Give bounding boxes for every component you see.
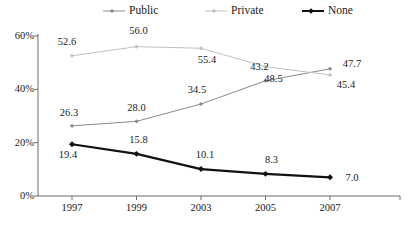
data-point-label: 7.0	[332, 173, 372, 184]
data-point-label: 43.2	[240, 62, 280, 73]
data-point-marker	[199, 46, 203, 50]
data-point-marker	[198, 166, 204, 172]
data-point-marker	[263, 171, 269, 177]
x-tick-label: 2003	[171, 203, 231, 214]
data-point-marker	[134, 45, 138, 49]
data-point-label: 48.5	[254, 74, 294, 85]
data-point-label: 8.3	[252, 155, 292, 166]
x-tick-label: 2007	[300, 203, 360, 214]
data-point-marker	[328, 73, 332, 77]
data-point-label: 19.4	[48, 150, 88, 161]
y-axis: 60%40%20%0%	[0, 0, 34, 228]
data-point-marker	[134, 151, 140, 157]
y-tick-label: 0%	[4, 191, 34, 202]
x-tick-label: 2005	[236, 203, 296, 214]
data-point-marker	[134, 119, 138, 123]
data-point-label: 52.6	[47, 37, 87, 48]
data-point-marker	[70, 54, 74, 58]
data-point-label: 47.7	[332, 59, 372, 70]
data-point-marker	[199, 102, 203, 106]
y-tick-label: 60%	[4, 31, 34, 42]
data-point-label: 55.4	[187, 55, 227, 66]
data-point-label: 45.4	[326, 80, 366, 91]
line-chart: Public Private None 60%40%20%0% 19971999…	[0, 0, 414, 228]
y-tick-label: 40%	[4, 84, 34, 95]
data-point-label: 56.0	[119, 26, 159, 37]
x-tick-label: 1997	[42, 203, 102, 214]
y-tick-label: 20%	[4, 138, 34, 149]
data-point-label: 10.1	[185, 150, 225, 161]
data-point-label: 34.5	[177, 85, 217, 96]
data-point-label: 26.3	[49, 108, 89, 119]
data-point-marker	[69, 141, 75, 147]
data-point-marker	[70, 124, 74, 128]
x-tick-label: 1999	[107, 203, 167, 214]
data-point-label: 28.0	[117, 103, 157, 114]
data-point-label: 15.8	[119, 135, 159, 146]
